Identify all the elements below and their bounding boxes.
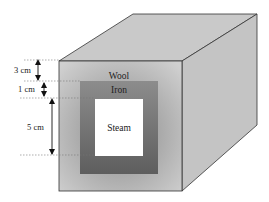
wool-thickness-label: 3 cm	[14, 65, 31, 75]
wool-label: Wool	[109, 71, 130, 81]
iron-label: Iron	[111, 85, 127, 95]
steam-width-label: 5 cm	[27, 122, 44, 132]
dimension-arrows	[35, 59, 55, 155]
steam-label: Steam	[107, 123, 131, 133]
insulated-pipe-diagram: Wool Iron Steam 3 cm 1 cm 5 cm	[0, 0, 269, 202]
iron-thickness-label: 1 cm	[18, 84, 35, 94]
